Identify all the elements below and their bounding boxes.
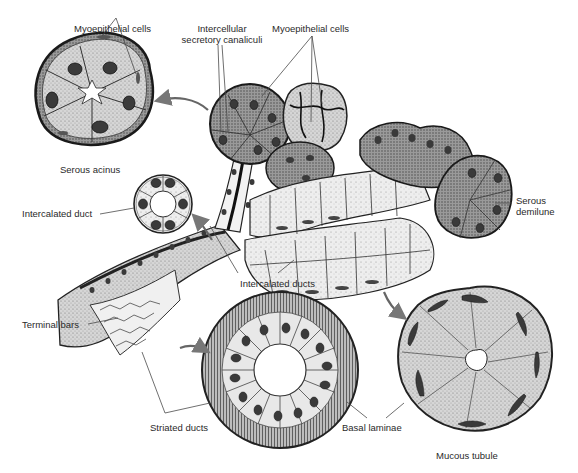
label-myoepithelial-cells-left: Myoepithelial cells — [74, 23, 151, 34]
arrow-to-striated-duct — [180, 346, 205, 350]
label-intercalated-duct: Intercalated duct — [22, 208, 92, 219]
arrow-to-serous-acinus — [160, 98, 208, 110]
label-intercellular-secretory-canaliculi: Intercellular secretory canaliculi — [170, 23, 274, 45]
label-striated-ducts: Striated ducts — [150, 422, 208, 433]
salivary-gland-illustration — [0, 0, 578, 473]
label-mucous-tubule: Mucous tubule — [436, 450, 498, 461]
label-terminal-bars: Terminal bars — [22, 319, 79, 330]
mucous-tubule-cross-section — [398, 287, 552, 431]
label-canaliculi-line2: secretory canaliculi — [170, 34, 274, 45]
label-serous-demilune-line2: demilune — [516, 206, 555, 217]
label-serous-demilune-line1: Serous — [516, 195, 555, 206]
label-serous-acinus: Serous acinus — [60, 164, 120, 175]
intercalated-duct-cross-section — [134, 175, 192, 233]
label-myoepithelial-cells-right: Myoepithelial cells — [272, 23, 349, 34]
label-canaliculi-line1: Intercellular — [170, 23, 274, 34]
arrow-to-mucous-tubule — [384, 292, 402, 316]
label-basal-laminae: Basal laminae — [342, 422, 402, 433]
striated-duct-cross-section — [202, 292, 358, 448]
label-serous-demilune: Serous demilune — [516, 195, 555, 217]
label-intercalated-ducts: Intercalated ducts — [240, 278, 315, 289]
serous-acinus-cross-section — [36, 33, 153, 145]
